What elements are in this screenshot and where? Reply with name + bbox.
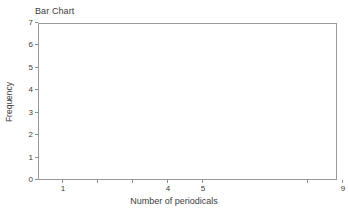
y-tick-label: 2 — [29, 130, 33, 139]
x-tick-mark — [342, 180, 343, 183]
bar-chart-screenshot: Bar Chart Frequency 01234567 145910 Numb… — [0, 0, 348, 222]
y-tick-label: 5 — [29, 63, 33, 72]
x-tick-mark — [202, 180, 203, 183]
y-tick-label: 6 — [29, 40, 33, 49]
x-tick-mark — [62, 180, 63, 183]
chart-title: Bar Chart — [35, 6, 74, 16]
y-tick-label: 7 — [29, 18, 33, 27]
bars-layer — [39, 24, 336, 179]
y-axis: 01234567 — [0, 23, 38, 180]
x-tick-label: 5 — [201, 184, 205, 193]
x-tick-label: 9 — [341, 184, 345, 193]
y-tick-label: 3 — [29, 108, 33, 117]
y-tick-label: 4 — [29, 85, 33, 94]
plot-area — [38, 23, 337, 180]
x-tick-label: 4 — [166, 184, 170, 193]
x-tick-mark — [167, 180, 168, 183]
x-tick-label: 1 — [61, 184, 65, 193]
x-tick-mark — [97, 180, 98, 183]
y-tick-label: 1 — [29, 153, 33, 162]
y-tick-label: 0 — [29, 175, 33, 184]
x-tick-mark — [132, 180, 133, 183]
x-axis-title: Number of periodicals — [0, 196, 348, 206]
x-tick-mark — [307, 180, 308, 183]
